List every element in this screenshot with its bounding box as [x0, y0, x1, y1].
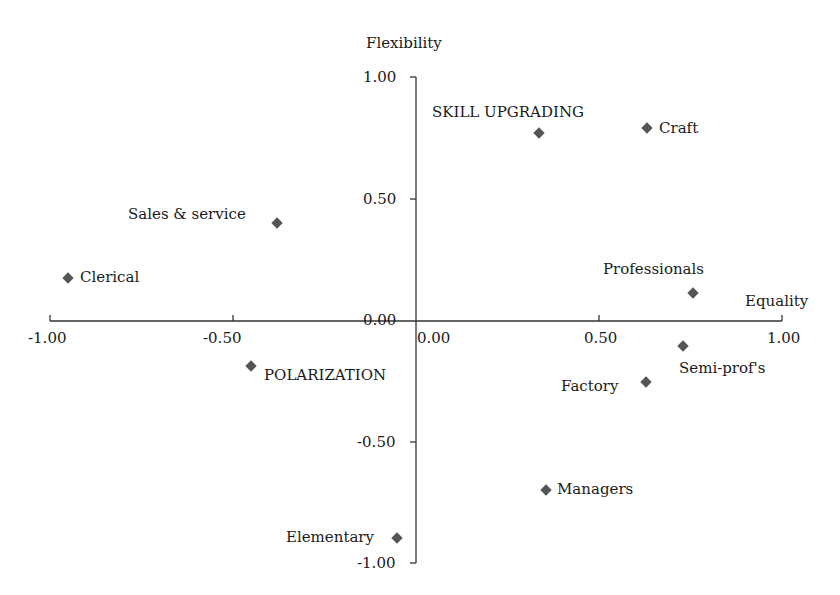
axes [0, 0, 840, 595]
point-label: SKILL UPGRADING [432, 105, 584, 120]
y-axis-title: Flexibility [366, 36, 442, 51]
x-tick: 0.00 [417, 331, 450, 346]
x-tick: 0.50 [584, 331, 617, 346]
y-tick: -1.00 [357, 556, 395, 571]
point-label: Semi-prof's [679, 361, 765, 376]
y-tick: 0.00 [363, 313, 396, 328]
y-tick: 0.50 [363, 192, 396, 207]
y-tick: -0.50 [357, 435, 395, 450]
point-label: Craft [659, 121, 698, 136]
x-axis-title: Equality [745, 294, 808, 309]
point-label: Clerical [80, 270, 139, 285]
x-tick: 1.00 [767, 331, 800, 346]
y-tick: 1.00 [363, 70, 396, 85]
point-label: Sales & service [128, 207, 246, 222]
point-label: Managers [557, 482, 633, 497]
scatter-chart: Flexibility Equality -1.00 -0.50 0.00 0.… [0, 0, 840, 595]
x-tick: -0.50 [203, 331, 241, 346]
x-tick: -1.00 [28, 331, 66, 346]
point-label: Factory [561, 379, 618, 394]
point-label: Professionals [603, 262, 704, 277]
point-label: Elementary [286, 530, 374, 545]
point-label: POLARIZATION [264, 368, 386, 383]
